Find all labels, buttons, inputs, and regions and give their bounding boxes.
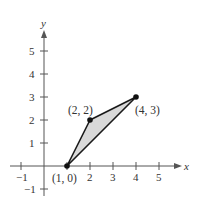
coordinate-plane-figure: x y −1 2 3 4 5 5 [0, 0, 198, 208]
x-ticks: −1 2 3 4 5 [16, 162, 162, 183]
y-tick-label: 5 [29, 45, 35, 57]
x-tick-label: 2 [87, 171, 93, 183]
y-axis-label: y [40, 17, 46, 29]
x-axis: x [10, 160, 189, 172]
vertex-point-2-2 [87, 117, 93, 123]
vertex-point-4-3 [133, 94, 139, 100]
y-tick-label: 3 [29, 91, 35, 103]
y-axis: y [40, 17, 47, 196]
vertex-point-1-0 [64, 163, 70, 169]
graph-svg: x y −1 2 3 4 5 5 [0, 0, 198, 208]
x-tick-label: −1 [16, 171, 28, 183]
y-tick-label: 2 [29, 114, 35, 126]
x-axis-label: x [183, 160, 189, 172]
vertex-label-1-0: (1, 0) [52, 172, 77, 185]
vertex-label-4-3: (4, 3) [135, 104, 160, 117]
y-tick-label: 4 [29, 68, 35, 80]
y-tick-label: 1 [29, 137, 35, 149]
y-axis-arrow-icon [41, 30, 47, 38]
x-tick-label: 3 [110, 171, 116, 183]
x-tick-label: 5 [156, 171, 162, 183]
x-axis-arrow-icon [174, 163, 182, 169]
x-tick-label: 4 [133, 171, 139, 183]
y-tick-label: −1 [24, 183, 36, 195]
vertex-label-2-2: (2, 2) [68, 104, 93, 117]
